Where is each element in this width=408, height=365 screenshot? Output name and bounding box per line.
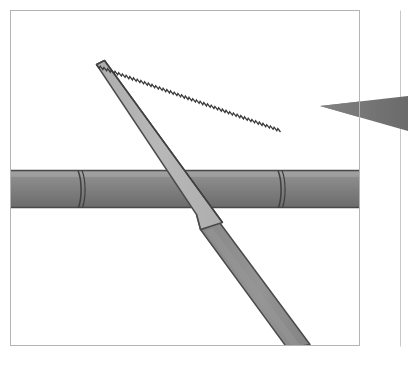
knife-cutting-bamboo-illustration xyxy=(0,0,408,365)
figure-page: Bamboo pole Serrated saw blade Saw handl… xyxy=(0,0,408,365)
